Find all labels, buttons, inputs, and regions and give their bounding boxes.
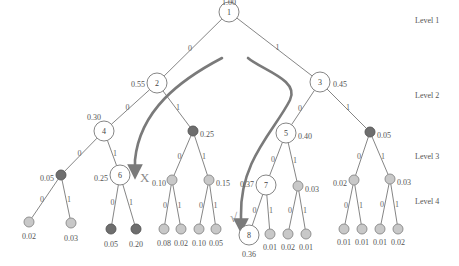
light-node-circle [393,224,403,234]
edge-label: 1 [129,198,133,207]
tree-node: 0.25 [188,126,214,139]
node-probability: 0.03 [305,185,319,194]
node-probability: 0.02 [391,238,405,247]
node-probability: 0.55 [131,80,145,89]
node-probability: 0.10 [152,179,166,188]
tree-node: 0.02 [174,224,188,248]
node-probability: 0.25 [200,130,214,139]
probability-tree-diagram: 010101010101010101010101010101 11.0020.5… [0,0,459,266]
node-probability: 0.10 [192,239,206,248]
edge-label: 0 [253,206,257,215]
node-probability: 0.20 [129,240,143,249]
node-probability: 0.01 [299,243,313,252]
edge-label: 1 [276,43,280,52]
light-node-circle [357,224,367,234]
dark-node-circle [106,224,116,234]
edge-label: 0 [111,198,115,207]
tree-node: 0.03 [64,218,78,243]
tree-node: 0.01 [337,224,351,247]
edge-label: 0 [298,104,302,113]
edge-label: 0 [288,206,292,215]
node-probability: 0.03 [64,234,78,243]
node-probability: 0.08 [157,239,171,248]
node-probability: 0.01 [355,238,369,247]
edge-label: 1 [395,200,399,209]
node-probability: 0.01 [373,238,387,247]
edge-label: 0 [126,103,130,112]
tree-node: 11.00 [219,0,239,22]
node-probability: 0.02 [333,179,347,188]
tree-node: 40.30 [87,113,114,141]
tree-node: 0.01 [373,224,387,247]
node-probability: 0.37 [240,180,254,189]
tree-node: 60.25 [94,165,130,185]
tree-node: 0.02 [281,229,295,252]
edge-label: 0 [163,201,167,210]
tree-node: 0.01 [263,229,277,252]
node-id-label: 1 [227,8,231,17]
node-id-label: 8 [247,231,251,240]
edge-label: 0 [380,200,384,209]
node-probability: 0.05 [104,240,118,249]
edge-label: 0 [344,201,348,210]
node-probability: 0.30 [87,113,101,122]
tree-node: 0.01 [299,229,313,252]
tree-node: 0.02 [22,217,36,241]
node-probability: 0.03 [397,178,411,187]
node-probability: 0.02 [174,239,188,248]
light-node-circle [293,181,303,191]
light-node-circle [339,224,349,234]
node-probability: 0.01 [337,238,351,247]
edge-label: 0 [199,201,203,210]
node-probability: 0.05 [377,131,391,140]
dark-node-circle [131,224,141,234]
node-probability: 0.05 [40,174,54,183]
light-node-circle [159,224,169,234]
tree-node: 0.05 [365,127,391,140]
edge-label: 0 [40,195,44,204]
cross-mark: X [140,170,150,185]
node-probability: 0.15 [216,179,230,188]
tree-canvas: 010101010101010101010101010101 11.0020.5… [0,0,459,266]
tree-edge [111,90,149,125]
edge-label: 1 [269,206,273,215]
level-label: Level 2 [415,91,439,100]
node-probability: 0.01 [263,243,277,252]
edge-label: 1 [113,149,117,158]
edge-label: 0 [357,152,361,161]
edge-label: 1 [346,103,350,112]
node-probability: 1.00 [222,0,236,7]
tree-edge [292,90,315,124]
light-node-circle [385,174,395,184]
tree-node: 0.01 [355,224,369,247]
node-probability: 0.05 [209,239,223,248]
light-node-circle [66,218,76,228]
nodes-layer: 11.0020.5530.4540.300.2550.400.050.0560.… [22,0,411,259]
edge-label: 0 [188,44,192,53]
edge-label: 1 [303,206,307,215]
level-label: Level 3 [415,152,439,161]
edge-label: 0 [271,155,275,164]
node-id-label: 4 [102,127,106,136]
light-node-circle [301,229,311,239]
tree-edge [237,18,312,76]
light-node-circle [204,175,214,185]
light-node-circle [194,224,204,234]
light-node-circle [24,217,34,227]
node-probability: 0.02 [281,243,295,252]
edge-label: 1 [202,152,206,161]
edge-label: 1 [381,152,385,161]
dark-node-circle [56,170,66,180]
tree-node: 0.05 [104,224,118,249]
edge-label: 1 [359,201,363,210]
light-node-circle [167,175,177,185]
node-probability: 0.45 [333,80,347,89]
edge-label: 1 [214,201,218,210]
tree-edge [372,137,388,175]
light-node-circle [176,224,186,234]
tree-node: 0.05 [209,224,223,248]
dark-node-circle [365,127,375,137]
tree-node: 80.36 [239,225,259,259]
edge-label: 1 [293,156,297,165]
node-id-label: 5 [284,129,288,138]
